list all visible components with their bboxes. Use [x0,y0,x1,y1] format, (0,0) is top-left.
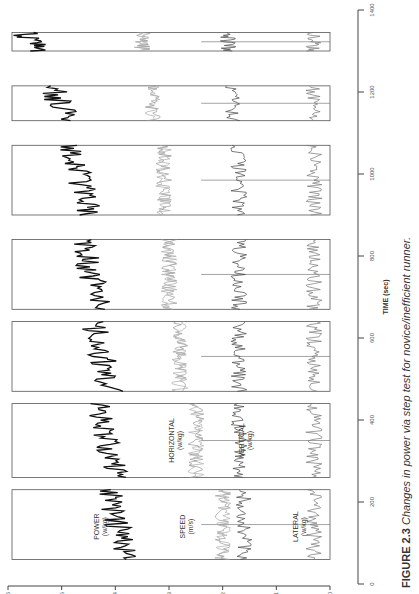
series-line-1 [146,86,160,121]
x-tick-label: 1400 [369,3,375,17]
series-line-0 [60,145,99,215]
series-unit: (w/kg) [300,517,308,536]
series-label: POWER [93,513,100,539]
x-tick-label: 200 [369,496,375,507]
series-line-0 [43,86,76,121]
series-line-0 [14,33,46,52]
x-tick-label: 0 [369,582,375,586]
caption-prefix: FIGURE 2.3 [400,528,412,588]
series-label: LATERAL [292,511,299,542]
series-unit: (w/kg) [246,431,254,450]
x-tick-label: 800 [369,250,375,261]
series-label: SPEED [179,515,186,539]
series-line-0 [90,404,127,478]
x-tick-label: 1200 [369,85,375,99]
power-step-chart: 02004006008001000120014000123456TIME (se… [0,0,419,594]
series-line-2 [161,240,177,310]
x-tick-label: 1000 [369,167,375,181]
x-tick-label: 600 [369,332,375,343]
series-line-0 [74,240,110,310]
series-line-0 [82,322,123,392]
series-unit: (w/kg) [176,431,184,450]
rotated-figure: 02004006008001000120014000123456TIME (se… [0,0,419,594]
series-unit: (w/kg) [101,517,109,536]
figure-caption: FIGURE 2.3 Changes in power via step tes… [400,237,412,588]
series-label: HORIZONTAL [168,418,175,463]
x-tick-label: 400 [369,414,375,425]
series-unit: (m/s) [187,519,195,535]
caption-text: Changes in power via step test for novic… [400,237,412,528]
series-line-1 [172,322,186,392]
x-axis-label: TIME (sec) [382,279,390,314]
series-label: VERTICAL [238,423,245,457]
